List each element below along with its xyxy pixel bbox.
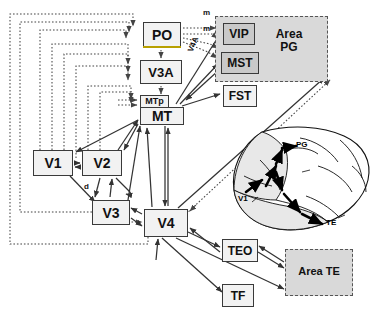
brain-label-te: TE	[326, 218, 336, 227]
edge-label-m-upper: m	[203, 8, 210, 17]
node-po[interactable]: PO	[143, 22, 181, 48]
region-area-te-label: Area TE	[285, 266, 353, 278]
node-fst[interactable]: FST	[223, 85, 257, 107]
area-pg-line2: PG	[280, 40, 297, 54]
node-mt[interactable]: MT	[140, 107, 184, 125]
node-vip[interactable]: VIP	[223, 23, 255, 45]
brain-label-v1: V1	[238, 194, 248, 203]
node-v3a[interactable]: V3A	[140, 60, 182, 84]
edge-label-m-lower: m	[203, 24, 210, 33]
po-underline-marker	[143, 46, 181, 48]
diagram-canvas: Area PG Area TE PO V3A MTp MT VIP MST FS…	[0, 0, 376, 321]
node-v1[interactable]: V1	[33, 150, 73, 176]
node-v2[interactable]: V2	[82, 150, 122, 176]
node-v3[interactable]: V3	[92, 200, 130, 225]
edge-label-d: d	[84, 182, 89, 191]
region-area-pg-label: Area PG	[264, 28, 314, 53]
brain-label-pg: PG	[296, 140, 308, 149]
node-tf[interactable]: TF	[222, 284, 254, 307]
node-v4[interactable]: V4	[144, 209, 188, 237]
node-mst[interactable]: MST	[221, 52, 259, 74]
node-teo[interactable]: TEO	[222, 239, 258, 262]
